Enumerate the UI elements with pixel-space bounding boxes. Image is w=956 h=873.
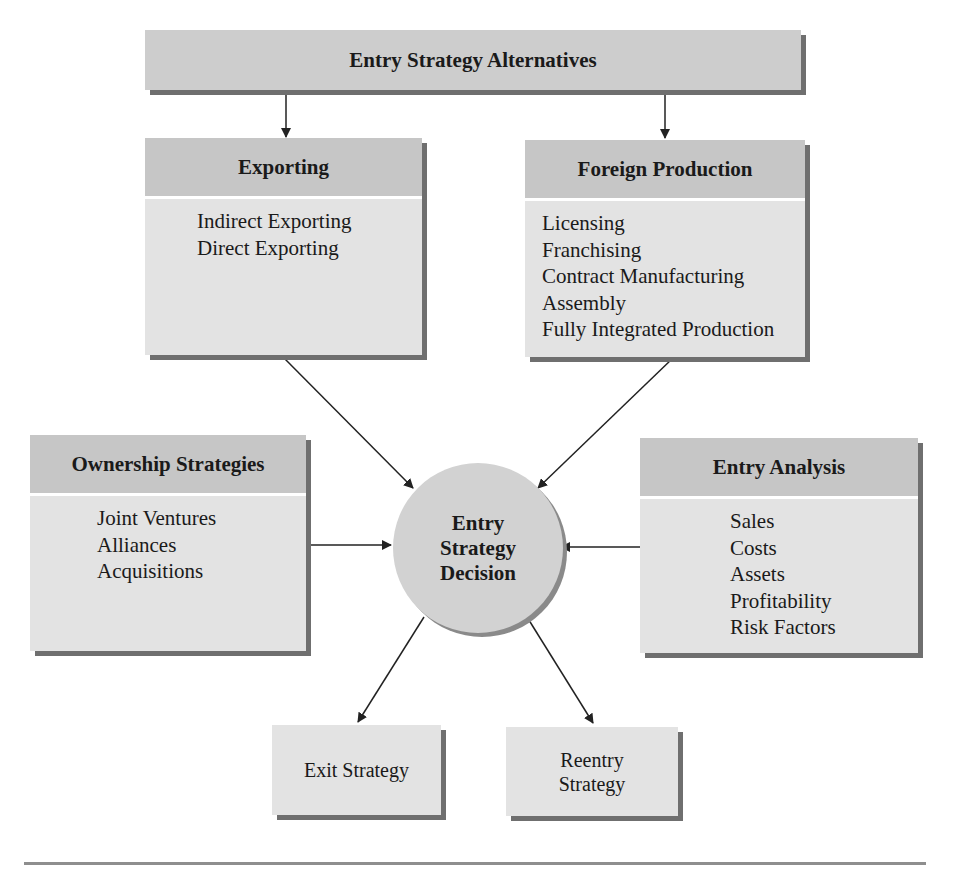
reentry-strategy-line: Strategy	[559, 772, 626, 796]
reentry-strategy-box: Reentry Strategy	[506, 727, 678, 816]
foreign-production-box: Foreign Production Licensing Franchising…	[525, 140, 805, 357]
foreign-production-list: Licensing Franchising Contract Manufactu…	[525, 201, 805, 343]
list-item: Direct Exporting	[197, 235, 422, 262]
reentry-strategy-line: Reentry	[560, 748, 623, 772]
entry-analysis-heading: Entry Analysis	[640, 438, 918, 499]
exporting-heading: Exporting	[145, 138, 422, 199]
exit-strategy-box: Exit Strategy	[272, 725, 441, 815]
bottom-rule-divider	[24, 862, 926, 865]
foreign-production-heading: Foreign Production	[525, 140, 805, 201]
list-item: Costs	[730, 535, 918, 562]
decision-line: Strategy	[440, 536, 516, 561]
diagram-title: Entry Strategy Alternatives	[349, 48, 596, 73]
entry-analysis-box: Entry Analysis Sales Costs Assets Profit…	[640, 438, 918, 653]
exporting-box: Exporting Indirect Exporting Direct Expo…	[145, 138, 422, 355]
list-item: Joint Ventures	[97, 505, 306, 532]
list-item: Indirect Exporting	[197, 208, 422, 235]
ownership-strategies-heading: Ownership Strategies	[30, 435, 306, 496]
list-item: Licensing	[542, 210, 805, 237]
list-item: Sales	[730, 508, 918, 535]
list-item: Alliances	[97, 532, 306, 559]
exit-strategy-label: Exit Strategy	[304, 758, 409, 782]
ownership-strategies-list: Joint Ventures Alliances Acquisitions	[30, 496, 306, 585]
list-item: Assembly	[542, 290, 805, 317]
entry-strategy-alternatives-box: Entry Strategy Alternatives	[145, 30, 801, 90]
arrow-decision-to-exit	[358, 617, 424, 722]
entry-analysis-list: Sales Costs Assets Profitability Risk Fa…	[640, 499, 918, 641]
list-item: Assets	[730, 561, 918, 588]
list-item: Profitability	[730, 588, 918, 615]
entry-strategy-decision-circle: Entry Strategy Decision	[393, 463, 563, 633]
list-item: Risk Factors	[730, 614, 918, 641]
decision-line: Decision	[440, 561, 516, 586]
arrow-decision-to-reentry	[527, 617, 593, 723]
decision-line: Entry	[452, 511, 505, 536]
list-item: Contract Manufacturing	[542, 263, 805, 290]
exporting-list: Indirect Exporting Direct Exporting	[145, 199, 422, 261]
list-item: Fully Integrated Production	[542, 316, 805, 343]
list-item: Franchising	[542, 237, 805, 264]
list-item: Acquisitions	[97, 558, 306, 585]
ownership-strategies-box: Ownership Strategies Joint Ventures Alli…	[30, 435, 306, 651]
